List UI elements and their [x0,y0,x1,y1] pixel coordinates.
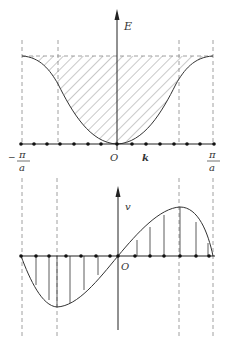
svg-text:a: a [19,162,25,173]
left-zone-label: − π a [8,149,30,173]
velocity-panel: v O [19,178,215,336]
velocity-axis-label: v [125,201,131,212]
k-axis-label: k [142,152,149,163]
k-points [19,142,216,146]
svg-text:−: − [8,152,16,162]
energy-axis-label: E [123,20,132,33]
origin-label-bottom: O [121,261,129,272]
hatched-region [20,54,216,146]
velocity-sample-lines [36,207,208,307]
origin-label-top: O [110,152,118,163]
svg-text:π: π [208,149,216,160]
band-diagram: E O k − π a π a [0,0,228,351]
svg-text:a: a [209,162,215,173]
energy-panel: E O k − π a π a [8,9,220,173]
arrow-up-icon [115,9,120,20]
svg-text:π: π [18,149,26,160]
arrow-up-icon [116,186,121,197]
right-zone-label: π a [207,149,220,173]
